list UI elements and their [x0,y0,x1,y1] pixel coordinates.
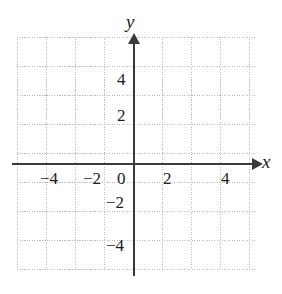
grid-line-horizontal [17,269,255,270]
grid-line-vertical [249,37,250,269]
grid-line-vertical [75,37,76,269]
y-tick-label-pos4: 4 [117,71,126,88]
grid-line-vertical [191,37,192,269]
y-tick-label-neg2: −2 [106,194,124,211]
y-axis-label: y [126,12,134,31]
y-tick-label-pos2: 2 [117,107,126,124]
x-tick-label-pos4: 4 [221,170,230,187]
x-tick-label-neg2: −2 [83,170,101,187]
y-axis-arrow-icon [128,33,140,44]
grid-line-vertical [46,37,47,269]
x-axis-label: x [262,152,270,171]
grid-line-vertical [104,37,105,269]
grid-line-vertical [220,37,221,269]
y-axis [133,44,135,276]
x-tick-label-zero: 0 [117,170,126,187]
grid-line-vertical [162,37,163,269]
coordinate-plane: x y −4 −2 0 2 4 4 2 −2 −4 [0,0,282,294]
x-tick-label-neg4: −4 [40,170,58,187]
y-tick-label-neg4: −4 [106,237,124,254]
x-tick-label-pos2: 2 [163,170,172,187]
grid-line-vertical [17,37,18,269]
